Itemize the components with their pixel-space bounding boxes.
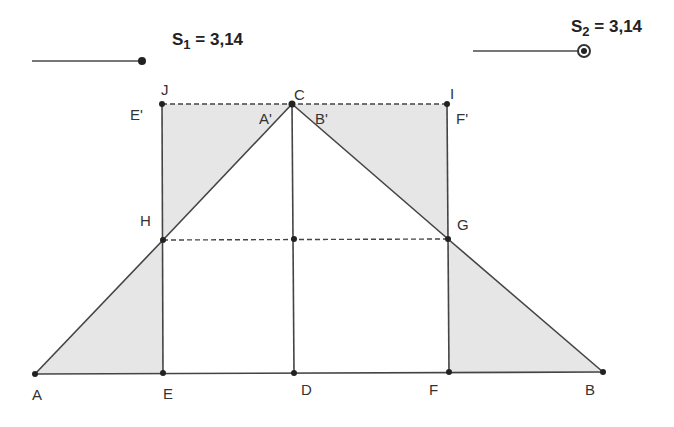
slider-s1-handle[interactable] (138, 57, 146, 65)
label-point-g: G (457, 217, 469, 232)
point-d[interactable] (291, 370, 297, 376)
slider-s2-label: S2 = 3,14 (571, 18, 642, 38)
point-midpoint[interactable] (291, 236, 297, 242)
label-prime-point: A' (259, 111, 272, 126)
geometry-canvas[interactable] (0, 0, 674, 427)
point-j[interactable] (159, 101, 165, 107)
point-h[interactable] (160, 237, 166, 243)
point-b[interactable] (600, 369, 606, 375)
label-point-h: H (140, 213, 151, 228)
slider-subscript: 1 (183, 37, 190, 52)
point-f[interactable] (446, 369, 452, 375)
point-g[interactable] (445, 236, 451, 242)
slider-handle-center-icon (581, 48, 587, 54)
label-point-b: B (585, 382, 595, 397)
label-prime-point: F' (456, 111, 468, 126)
label-prime-point: E' (130, 107, 143, 122)
label-point-j: J (161, 82, 169, 97)
segment-HG-dashed (163, 239, 448, 240)
label-point-a: A (32, 387, 42, 402)
point-a[interactable] (32, 371, 38, 377)
label-point-d: D (301, 382, 312, 397)
label-prime-point: B' (315, 111, 328, 126)
label-point-f: F (429, 382, 438, 397)
slider-s1-label: S1 = 3,14 (172, 31, 243, 51)
slider-subscript: 2 (582, 24, 589, 39)
point-e[interactable] (160, 370, 166, 376)
label-point-c: C (294, 87, 305, 102)
label-point-e: E (163, 386, 173, 401)
label-point-i: I (450, 86, 454, 101)
